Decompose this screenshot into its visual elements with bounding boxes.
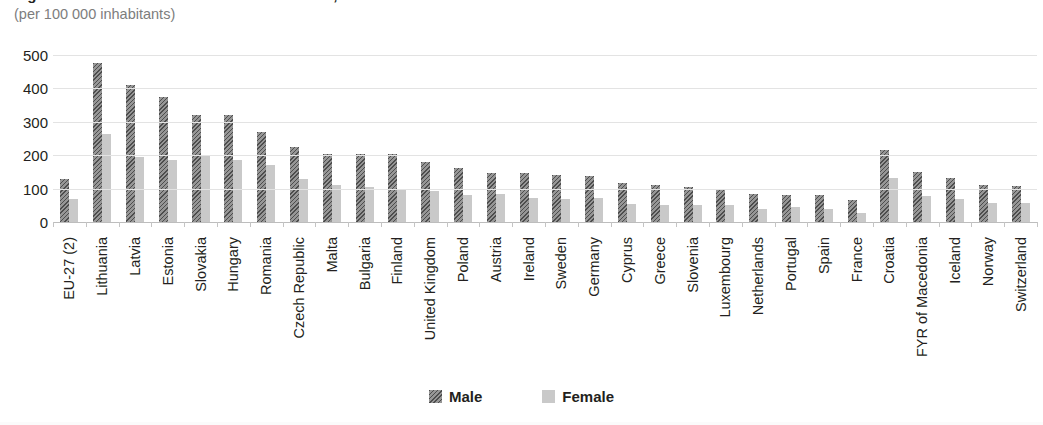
bar-group[interactable] [971,55,1004,222]
bar-group[interactable] [578,55,611,222]
bar-group[interactable] [676,55,709,222]
x-axis-category-label: Poland [456,237,471,282]
bar-group[interactable] [840,55,873,222]
bar-male[interactable] [880,150,889,222]
bar-female[interactable] [988,203,997,222]
bar-female[interactable] [463,195,472,222]
bar-female[interactable] [955,199,964,222]
bar-group[interactable] [939,55,972,222]
bar-female[interactable] [529,198,538,222]
bar-male[interactable] [126,85,135,222]
bar-male[interactable] [913,172,922,222]
bar-female[interactable] [627,204,636,222]
bar-male[interactable] [60,179,69,222]
bar-female[interactable] [824,209,833,222]
bar-group[interactable] [611,55,644,222]
x-axis-tickmark [545,222,546,227]
bar-group[interactable] [873,55,906,222]
bar-group[interactable] [906,55,939,222]
bar-group[interactable] [283,55,316,222]
x-axis-tickmark [283,222,284,227]
bar-male[interactable] [520,173,529,222]
bar-group[interactable] [742,55,775,222]
bar-male[interactable] [487,173,496,222]
bar-group[interactable] [1004,55,1037,222]
bar-group[interactable] [545,55,578,222]
bar-male[interactable] [1012,186,1021,222]
bar-male[interactable] [848,200,857,222]
bar-group[interactable] [807,55,840,222]
bar-female[interactable] [102,134,111,223]
bar-male[interactable] [815,195,824,222]
bar-group[interactable] [414,55,447,222]
bar-female[interactable] [168,160,177,222]
bar-group[interactable] [86,55,119,222]
bar-female[interactable] [397,190,406,222]
bar-group[interactable] [381,55,414,222]
bar-male[interactable] [684,187,693,222]
bar-male[interactable] [290,147,299,222]
bar-male[interactable] [224,115,233,222]
bar-female[interactable] [791,207,800,222]
bar-male[interactable] [651,185,660,222]
bar-group[interactable] [53,55,86,222]
x-axis-category-labels: EU-27 (2)LithuaniaLatviaEstoniaSlovakiaH… [53,237,1037,377]
bar-female[interactable] [857,213,866,222]
bar-male[interactable] [421,162,430,222]
bar-group[interactable] [151,55,184,222]
bar-female[interactable] [758,209,767,222]
bar-group[interactable] [119,55,152,222]
bar-male[interactable] [454,168,463,222]
bar-group[interactable] [512,55,545,222]
bar-group[interactable] [709,55,742,222]
bar-group[interactable] [348,55,381,222]
bar-male[interactable] [946,178,955,222]
bar-group[interactable] [217,55,250,222]
bar-female[interactable] [889,178,898,222]
bar-female[interactable] [365,187,374,222]
bar-female[interactable] [430,191,439,222]
bar-female[interactable] [332,185,341,222]
bar-female[interactable] [725,205,734,222]
x-axis-label-cell: Switzerland [1004,237,1037,377]
x-axis-category-label: Estonia [161,237,176,285]
bar-male[interactable] [552,175,561,222]
bar-male[interactable] [257,132,266,222]
bar-female[interactable] [69,199,78,222]
bar-male[interactable] [782,195,791,222]
x-axis-tickmark [151,222,152,227]
bar-group[interactable] [775,55,808,222]
chart-legend: Male Female [0,388,1043,405]
bar-male[interactable] [159,97,168,222]
bar-male[interactable] [93,63,102,222]
bar-group[interactable] [250,55,283,222]
bar-group[interactable] [447,55,480,222]
bar-group[interactable] [479,55,512,222]
bar-group[interactable] [184,55,217,222]
bar-female[interactable] [1021,203,1030,222]
bar-male[interactable] [979,185,988,222]
chart-title-clipped: Figure: Standardised death rate from sui… [14,0,375,4]
bar-group[interactable] [315,55,348,222]
legend-label-male: Male [449,388,482,405]
bar-female[interactable] [299,179,308,222]
bar-group[interactable] [643,55,676,222]
x-axis-label-cell: Cyprus [611,237,644,377]
bar-female[interactable] [496,194,505,222]
bar-male[interactable] [585,176,594,222]
bar-female[interactable] [266,165,275,222]
bar-female[interactable] [594,198,603,222]
bar-female[interactable] [233,160,242,222]
bar-female[interactable] [922,196,931,222]
x-axis-tickmark [1004,222,1005,227]
bar-female[interactable] [693,205,702,222]
x-axis-category-label: Lithuania [95,237,110,296]
bar-female[interactable] [561,199,570,222]
bar-male[interactable] [749,194,758,222]
bar-male[interactable] [716,189,725,222]
bar-male[interactable] [192,115,201,222]
bar-female[interactable] [660,205,669,222]
x-axis-category-label: EU-27 (2) [62,237,77,300]
x-axis-label-cell: Bulgaria [348,237,381,377]
x-axis-category-label: Switzerland [1013,237,1028,312]
